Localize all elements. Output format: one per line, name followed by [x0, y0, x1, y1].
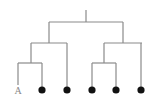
tree-edges — [18, 10, 142, 90]
tree-leaves: A — [14, 85, 144, 96]
leaf-dot-icon — [137, 86, 144, 93]
leaf-dot-icon — [38, 86, 45, 93]
leaf-dot-icon — [88, 86, 95, 93]
leaf-label-a: A — [14, 85, 22, 96]
leaf-dot-icon — [63, 86, 70, 93]
dendrogram-diagram: A — [0, 0, 154, 105]
leaf-dot-icon — [112, 86, 119, 93]
